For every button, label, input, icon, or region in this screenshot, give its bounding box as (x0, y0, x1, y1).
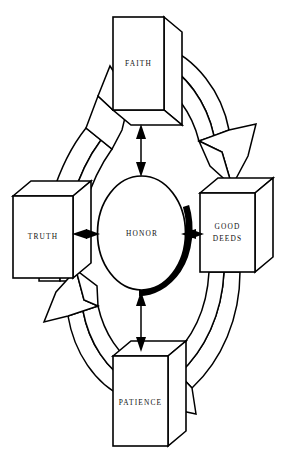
node-box-good-deeds: GOOD DEEDS (200, 178, 273, 272)
arrow-head-up (136, 124, 146, 139)
node-label-good-deeds-line1: GOOD (215, 222, 241, 231)
diagram-canvas: HONOR FAITH TRUTH GOOD DEEDS (0, 0, 282, 464)
node-label-good-deeds-line2: DEEDS (213, 234, 243, 243)
connector-faith-honor (136, 124, 146, 177)
arrow-head-down (136, 162, 146, 177)
node-box-faith: FAITH (113, 17, 182, 125)
node-label-truth: TRUTH (28, 232, 58, 241)
cycle-diagram: HONOR FAITH TRUTH GOOD DEEDS (0, 0, 282, 464)
node-label-faith: FAITH (125, 59, 152, 68)
node-box-patience: PATIENCE (113, 341, 186, 446)
node-label-patience: PATIENCE (119, 398, 162, 407)
center-node-label: HONOR (126, 229, 158, 238)
center-node-honor: HONOR (98, 176, 190, 293)
node-box-truth: TRUTH (13, 181, 91, 278)
